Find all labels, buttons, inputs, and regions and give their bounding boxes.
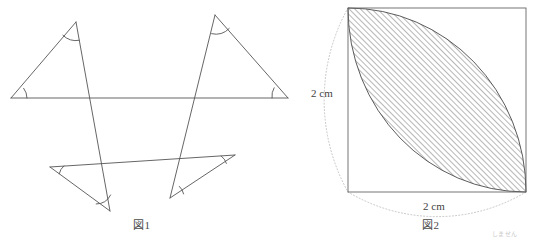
figure2-caption: 図2 — [422, 216, 440, 232]
page-footnote: しません — [492, 229, 517, 238]
hatched-lens-fill — [340, 0, 535, 200]
dimension-arc-left — [324, 8, 348, 192]
dimension-label-bottom: 2 cm — [423, 200, 445, 212]
worksheet-figure-page: 図1 2 cm 2 cm 図2 しません — [0, 0, 535, 241]
figure2-drawing — [0, 0, 535, 241]
dimension-label-left: 2 cm — [311, 87, 333, 99]
